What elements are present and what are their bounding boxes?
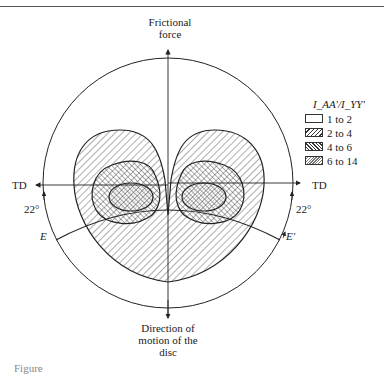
legend-item: 2 to 4 xyxy=(305,126,365,139)
legend-title: I_AA'/I_YY' xyxy=(313,98,365,110)
label-line: Direction of xyxy=(128,322,208,334)
swatch-dense-diagonal-icon xyxy=(305,156,323,165)
legend-label: 6 to 14 xyxy=(327,155,358,167)
legend-label: 4 to 6 xyxy=(327,141,352,153)
legend-label: 1 to 2 xyxy=(327,113,352,125)
label-line: Frictional xyxy=(140,16,200,28)
td-right-label: TD xyxy=(312,179,327,191)
swatch-back-diagonal-icon xyxy=(305,142,323,151)
label-line: disc xyxy=(128,346,208,358)
legend-item: 1 to 2 xyxy=(305,112,365,125)
angle-left-label: 22° xyxy=(24,203,39,215)
figure-caption: Figure xyxy=(14,362,43,374)
label-line: motion of the xyxy=(128,334,208,346)
swatch-wide-diagonal-icon xyxy=(305,128,323,137)
frictional-force-label: Frictional force xyxy=(140,16,200,40)
td-left-label: TD xyxy=(12,179,27,191)
swatch-blank-icon xyxy=(305,114,323,123)
direction-of-motion-label: Direction of motion of the disc xyxy=(128,322,208,358)
e-left-label: E xyxy=(40,230,47,242)
legend-item: 6 to 14 xyxy=(305,154,365,167)
legend-label: 2 to 4 xyxy=(327,127,352,139)
legend-item: 4 to 6 xyxy=(305,140,365,153)
e-right-label: E' xyxy=(286,230,295,242)
region-6-to-14-right xyxy=(182,183,226,211)
region-6-to-14-left xyxy=(109,183,153,211)
label-line: force xyxy=(140,28,200,40)
legend: I_AA'/I_YY' 1 to 2 2 to 4 4 to 6 6 to 14 xyxy=(305,98,365,168)
angle-right-label: 22° xyxy=(296,203,311,215)
